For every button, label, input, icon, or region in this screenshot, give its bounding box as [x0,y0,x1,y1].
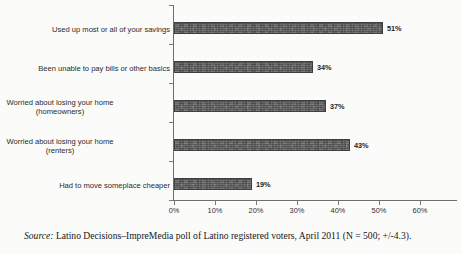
y-axis-tick [169,161,173,162]
x-axis-tick [215,201,216,205]
x-axis-label-50: 50% [364,206,394,215]
y-axis-tick [169,5,173,6]
bar-value-bills: 34% [317,63,332,72]
x-axis-tick [338,201,339,205]
x-axis-label-30: 30% [282,206,312,215]
bar-chart-figure: Used up most or all of your savings Been… [0,0,461,220]
category-label-savings: Used up most or all of your savings [0,25,170,34]
source-caption-text: Latino Decisions–ImpreMedia poll of Lati… [53,230,411,241]
bar-value-savings: 51% [387,24,402,33]
x-axis-label-10: 10% [200,206,230,215]
y-axis-tick [169,44,173,45]
bar-value-move-cheaper: 19% [256,180,271,189]
x-axis-tick [297,201,298,205]
x-axis-tick [174,201,175,205]
y-axis-tick [169,200,173,201]
x-axis-tick [256,201,257,205]
bar-value-home-renters: 43% [354,141,369,150]
y-axis-tick [169,122,173,123]
bar-home-renters [174,139,350,151]
bar-bills [174,61,313,73]
bar-savings [174,22,383,34]
source-caption: Source: Latino Decisions–ImpreMedia poll… [24,230,444,242]
x-axis-tick [420,201,421,205]
category-label-move-cheaper: Had to move someplace cheaper [0,181,170,190]
x-axis-label-60: 60% [405,206,435,215]
category-label-line-2: (homeowners) [0,107,170,116]
bar-home-homeowners [174,100,326,112]
category-label-line-1: Worried about losing your home [0,137,170,146]
x-axis-label-20: 20% [241,206,271,215]
x-axis-label-0: 0% [159,206,189,215]
category-label-line-2: (renters) [0,146,170,155]
bar-move-cheaper [174,178,252,190]
x-axis-label-40: 40% [323,206,353,215]
source-caption-label: Source: [24,230,53,241]
category-label-home-renters: Worried about losing your home (renters) [0,137,170,156]
category-label-bills: Been unable to pay bills or other basics [0,64,170,73]
bar-value-home-homeowners: 37% [330,102,345,111]
category-label-line-1: Worried about losing your home [0,98,170,107]
x-axis-tick [379,201,380,205]
y-axis-tick [169,83,173,84]
category-label-home-homeowners: Worried about losing your home (homeowne… [0,98,170,117]
